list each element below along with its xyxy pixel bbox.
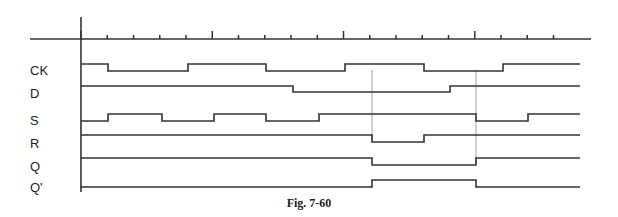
signal-label-s: S <box>30 113 39 128</box>
figure-caption: Fig. 7-60 <box>0 196 618 211</box>
time-axis <box>30 17 591 192</box>
signal-labels: CK D S R Q Q' <box>30 63 48 195</box>
waveform-r <box>81 135 580 142</box>
waveform-qbar <box>81 180 580 187</box>
waveform-d <box>81 86 580 92</box>
signal-label-d: D <box>30 86 39 101</box>
waveform-q <box>81 158 580 165</box>
waveform-ck <box>81 64 580 71</box>
signal-label-ck: CK <box>30 63 48 78</box>
signal-label-q: Q <box>30 159 40 174</box>
signal-label-r: R <box>30 136 39 151</box>
signal-waveforms <box>81 64 580 187</box>
guide-lines <box>372 70 476 165</box>
timing-diagram: CK D S R Q Q' <box>0 0 618 217</box>
signal-label-qbar: Q' <box>30 180 43 195</box>
waveform-s <box>81 114 580 121</box>
